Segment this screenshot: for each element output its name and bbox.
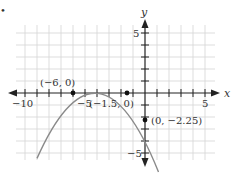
graph-canvas: • x y −10 −5 5 5 −5 (−6, 0) (−1.5, 0) (0… (0, 0, 239, 176)
x-axis-right-arrow-icon (211, 90, 220, 97)
point-neg1.5-0 (125, 91, 130, 96)
y-axis-up-arrow-icon (142, 19, 149, 28)
x-axis-label: x (224, 87, 231, 100)
point-label-neg1.5-0: (−1.5, 0) (89, 98, 134, 109)
y-axis-down-arrow-icon (142, 158, 149, 167)
problem-marker: • (0, 5, 6, 16)
tick-label-x-neg10: −10 (12, 98, 33, 109)
point-label-neg6-0: (−6, 0) (40, 77, 75, 88)
tick-label-x-5: 5 (202, 98, 208, 109)
tick-label-y-5: 5 (133, 28, 139, 39)
y-axis-label: y (140, 6, 148, 19)
tick-label-y-neg5: −5 (127, 148, 142, 159)
point-label-0-neg2.25: (0, −2.25) (151, 115, 202, 126)
point-0-neg2.25 (143, 118, 148, 123)
point-neg6-0 (71, 91, 76, 96)
x-axis-left-arrow-icon (8, 90, 17, 97)
